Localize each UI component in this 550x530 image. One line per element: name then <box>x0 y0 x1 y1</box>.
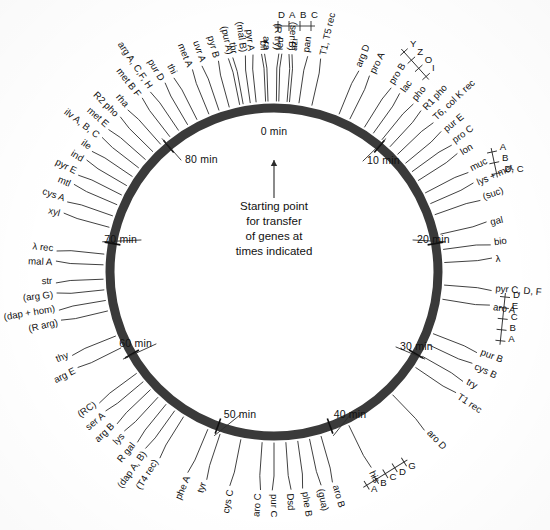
gene-leader-line <box>207 434 220 479</box>
ladder-subgene-label: Y <box>410 38 417 49</box>
gene-label: cys C <box>220 488 235 514</box>
gene-leader-line <box>290 55 293 102</box>
gene-leader-line <box>193 70 209 114</box>
gene-leader-line <box>299 57 308 103</box>
gene-label: phe B <box>300 491 314 517</box>
gene-leader-line <box>350 76 369 119</box>
gene-leader-line <box>165 83 187 124</box>
center-annotation: Starting pointfor transferof genes attim… <box>236 160 313 257</box>
gene-leader-line <box>229 59 240 105</box>
gene-label: λ rec <box>32 240 54 253</box>
gene-label: muc <box>468 155 489 173</box>
center-note-line: times indicated <box>236 245 313 257</box>
gene-label: bil <box>258 40 269 50</box>
gene-leader-line <box>262 54 266 101</box>
time-label-0: 0 min <box>261 125 288 137</box>
ladder-subgene-label: B <box>510 322 516 333</box>
time-label-20: 20 min <box>417 233 450 245</box>
gene-leader-line <box>57 251 104 254</box>
ladder-rung <box>495 340 505 341</box>
gene-leader-line <box>429 345 472 363</box>
gene-leader-line <box>57 290 104 293</box>
gene-label: try <box>465 376 480 391</box>
gene-leader-line <box>74 185 117 205</box>
gene-leader-line <box>56 261 103 265</box>
gene-leader-line <box>312 59 321 105</box>
starting-point-arrowhead <box>271 160 277 166</box>
ladder-subgene-label: A <box>289 9 296 20</box>
gene-leader-line <box>106 382 143 411</box>
ladder-rung <box>500 296 510 297</box>
gene-label: Dsd <box>285 493 297 511</box>
time-label-80: 80 min <box>185 153 218 165</box>
gene-leader-line <box>117 390 150 424</box>
gene-leader-line <box>382 104 413 139</box>
gene-label: T1 rec <box>455 391 484 415</box>
operon-ladder-try: DECBA <box>495 287 521 346</box>
gene-leader-line <box>444 245 491 250</box>
gene-leader-line <box>393 395 424 430</box>
time-label-70: 70 min <box>104 233 137 245</box>
gene-leader-line <box>260 443 262 490</box>
ladder-subgene-label: A <box>371 483 378 494</box>
operon-ladder-lac: YZOI <box>396 34 443 83</box>
time-label-30: 30 min <box>400 340 433 352</box>
gene-label: (R arg) <box>27 316 59 334</box>
gene-label: pur B <box>479 346 504 365</box>
gene-leader-line <box>142 98 169 136</box>
gene-label: lon <box>458 141 475 157</box>
gene-leader-line <box>64 213 109 227</box>
gene-leader-line <box>349 426 371 468</box>
ladder-subgene-label: O <box>425 54 432 65</box>
gene-leader-line <box>160 417 183 458</box>
gene-label: (ser B) <box>287 22 300 52</box>
ladder-subgene-label: I <box>432 62 435 73</box>
gene-label: aro A <box>492 301 516 316</box>
gene-leader-line <box>100 374 137 403</box>
gene-leader-line <box>321 436 332 482</box>
gene-leader-line <box>431 183 473 203</box>
gene-label: (R try) <box>273 23 284 50</box>
gene-leader-line <box>146 411 175 448</box>
gene-leader-line <box>443 299 490 305</box>
gene-leader-line <box>68 202 113 216</box>
gene-leader-line <box>174 78 197 119</box>
gene-leader-line <box>92 152 132 177</box>
gene-label: thy <box>54 349 70 364</box>
gene-label: gal <box>489 214 504 228</box>
gene-label: str <box>41 275 53 286</box>
time-label-60: 60 min <box>119 337 152 349</box>
center-note-line: of genes at <box>246 230 304 242</box>
gene-leader-line <box>272 443 274 490</box>
gene-label: pyr C, D, F <box>495 283 542 298</box>
gene-label: xyl <box>47 204 61 218</box>
gene-leader-line-group <box>56 54 491 490</box>
ladder-rung <box>497 329 507 330</box>
gene-leader-line <box>230 440 241 486</box>
gene-leader-line <box>298 441 303 488</box>
gene-leader-line <box>286 443 291 490</box>
gene-label: phe A <box>172 474 192 501</box>
time-label-40: 40 min <box>334 408 367 420</box>
gene-label: bio <box>493 235 507 248</box>
gene-leader-line <box>310 439 321 485</box>
gene-leader-line <box>435 201 480 215</box>
gene-leader-line <box>151 92 179 130</box>
gene-leader-line <box>102 138 138 168</box>
gene-label: (gua) <box>316 488 331 512</box>
gene-label: aro C <box>250 493 263 517</box>
gene-leader-line <box>287 55 290 102</box>
gene-leader-line <box>390 111 421 147</box>
gene-leader-line <box>398 123 433 154</box>
gene-leader-line <box>109 130 146 160</box>
gene-leader-line <box>406 132 441 163</box>
gene-leader-line <box>445 285 492 290</box>
ladder-subgene-label: C <box>390 471 397 482</box>
gene-label: tyr <box>194 480 208 494</box>
gene-leader-line <box>125 398 158 431</box>
gene-leader-line <box>245 56 250 103</box>
gene-label: pro A <box>367 50 387 75</box>
gene-leader-line <box>121 117 153 151</box>
ladder-subgene-label: A <box>508 333 515 344</box>
gene-leader-line <box>188 430 208 473</box>
